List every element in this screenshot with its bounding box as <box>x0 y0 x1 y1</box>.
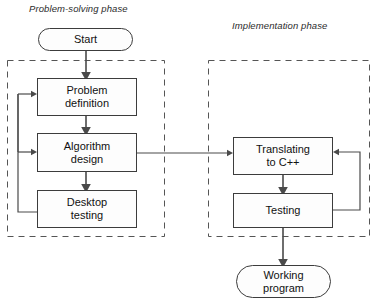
node-testing[interactable]: Testing <box>233 193 333 228</box>
edge-desktop-testing-feedback-trunk <box>18 94 37 212</box>
node-problem-definition[interactable]: Problem definition <box>37 78 137 116</box>
node-problem-definition-label: Problem definition <box>61 84 113 110</box>
node-working-program-label: Working program <box>259 269 308 295</box>
node-translating-to-cpp[interactable]: Translating to C++ <box>233 137 333 175</box>
node-translating-to-cpp-line1: Translating <box>254 143 312 156</box>
node-algorithm-design[interactable]: Algorithm design <box>37 133 137 172</box>
phase-label-implementation: Implementation phase <box>232 20 327 31</box>
node-problem-definition-line2: definition <box>63 97 111 110</box>
node-desktop-testing[interactable]: Desktop testing <box>37 190 137 228</box>
node-algorithm-design-label: Algorithm design <box>60 140 114 166</box>
edge-testing-feedback-to-translating <box>333 152 360 210</box>
node-translating-to-cpp-line2: to C++ <box>254 156 312 169</box>
node-working-program-line1: Working <box>261 269 306 282</box>
node-desktop-testing-line1: Desktop <box>65 196 109 209</box>
node-problem-definition-line1: Problem <box>63 84 111 97</box>
node-algorithm-design-line1: Algorithm <box>62 140 112 153</box>
node-translating-to-cpp-label: Translating to C++ <box>252 143 314 169</box>
node-start-label: Start <box>72 33 99 46</box>
node-working-program-line2: program <box>261 282 306 295</box>
node-start[interactable]: Start <box>38 28 133 51</box>
node-testing-label: Testing <box>264 204 303 217</box>
phase-label-problem-solving: Problem-solving phase <box>29 3 128 14</box>
node-desktop-testing-label: Desktop testing <box>63 196 111 222</box>
node-working-program[interactable]: Working program <box>236 265 331 298</box>
node-algorithm-design-line2: design <box>62 153 112 166</box>
node-desktop-testing-line2: testing <box>65 209 109 222</box>
